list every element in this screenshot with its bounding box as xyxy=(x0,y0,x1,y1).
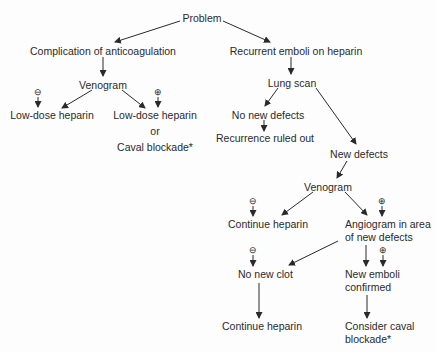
node-angiogram-line2: of new defects xyxy=(345,231,413,243)
node-consider-caval-line1: Consider caval xyxy=(345,320,414,332)
node-recurrence-ruled-out: Recurrence ruled out xyxy=(216,132,314,144)
node-problem: Problem xyxy=(182,12,221,24)
positive-sign-icon: ⊕ xyxy=(378,197,386,206)
edge-angiogram-noclot xyxy=(289,241,338,265)
node-low-dose-neg: Low-dose heparin xyxy=(10,109,93,121)
node-venogram-left: Venogram xyxy=(79,79,127,91)
negative-sign-icon: ⊖ xyxy=(249,246,257,255)
flowchart-canvas: Problem Complication of anticoagulation … xyxy=(0,0,436,352)
node-caval-blockade-left: Caval blockade* xyxy=(117,141,193,153)
positive-sign-icon: ⊕ xyxy=(154,88,162,97)
edge-venogram-angiogram xyxy=(345,192,367,215)
node-complication: Complication of anticoagulation xyxy=(30,45,176,57)
edge-venogram-continue xyxy=(282,192,313,215)
positive-sign-icon: ⊕ xyxy=(379,246,387,255)
edge-problem-complication xyxy=(115,21,180,42)
node-angiogram-line1: Angiogram in area xyxy=(345,218,431,230)
node-new-emboli-line1: New emboli xyxy=(345,268,400,280)
edge-problem-recurrent xyxy=(223,21,270,42)
node-new-defects: New defects xyxy=(330,148,388,160)
negative-sign-icon: ⊖ xyxy=(249,197,257,206)
node-continue-heparin-2: Continue heparin xyxy=(222,320,302,332)
node-recurrent: Recurrent emboli on heparin xyxy=(230,45,363,57)
edge-lungscan-nonew xyxy=(265,88,278,106)
node-continue-heparin-1: Continue heparin xyxy=(228,218,308,230)
node-no-new-defects: No new defects xyxy=(232,109,304,121)
edge-newdefects-venogram xyxy=(337,161,347,178)
node-or: or xyxy=(150,125,159,137)
node-low-dose-pos: Low-dose heparin xyxy=(113,109,196,121)
edge-venogram-lowdose-neg xyxy=(62,90,92,108)
node-new-emboli-line2: confirmed xyxy=(345,281,391,293)
edge-lungscan-newdefects xyxy=(316,88,356,144)
node-lung-scan: Lung scan xyxy=(268,77,316,89)
node-consider-caval-line2: blockade* xyxy=(345,333,391,345)
node-venogram-right: Venogram xyxy=(304,181,352,193)
negative-sign-icon: ⊖ xyxy=(34,88,42,97)
edge-venogram-lowdose-pos xyxy=(122,90,145,108)
node-no-new-clot: No new clot xyxy=(238,268,293,280)
